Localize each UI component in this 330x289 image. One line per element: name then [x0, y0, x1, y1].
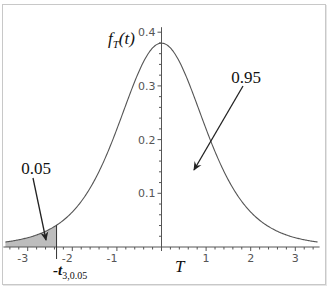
- y-tick-label: 0.1: [138, 187, 156, 200]
- x-tick-label: 1: [203, 252, 210, 265]
- x-tick-label: 2: [247, 252, 254, 265]
- y-tick-label: 0.4: [138, 26, 156, 39]
- shaded-area: [5, 225, 56, 247]
- annotation-label: 0.95: [231, 68, 261, 87]
- x-tick-label: 3: [292, 252, 299, 265]
- annotation-label: 0.05: [21, 159, 51, 178]
- annotation-arrow: [33, 178, 46, 240]
- y-axis-label: fT(t): [108, 29, 135, 50]
- annotation-arrow: [194, 86, 243, 170]
- x-tick-label: -3: [17, 252, 28, 265]
- annotations: 0.050.95: [21, 68, 261, 240]
- x-tick-label: -2: [62, 252, 73, 265]
- x-axis-label: T: [175, 257, 186, 276]
- t-distribution-chart: -3-2-11230.10.20.30.4 0.050.95 fT(t) T -…: [0, 0, 330, 289]
- shaded-tail-area: [5, 225, 56, 247]
- x-tick-label: -1: [106, 252, 117, 265]
- y-tick-label: 0.3: [138, 80, 156, 93]
- y-tick-label: 0.2: [138, 134, 156, 147]
